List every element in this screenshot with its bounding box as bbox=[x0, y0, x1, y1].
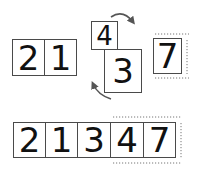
card-2-top: 2 bbox=[12, 39, 45, 76]
card-bottom-2: 1 bbox=[45, 122, 78, 158]
card-label: 3 bbox=[83, 123, 105, 157]
card-4-swapping: 4 bbox=[91, 21, 118, 50]
card-label: 2 bbox=[19, 123, 41, 157]
card-bottom-5-highlighted: 7 bbox=[143, 122, 176, 158]
card-bottom-4: 4 bbox=[110, 122, 144, 158]
card-label: 4 bbox=[116, 123, 138, 157]
card-label: 2 bbox=[18, 41, 40, 75]
card-bottom-3: 3 bbox=[77, 122, 111, 158]
card-3-swapping: 3 bbox=[104, 49, 142, 93]
card-label: 3 bbox=[112, 54, 134, 88]
card-label: 1 bbox=[51, 123, 73, 157]
card-7-highlighted: 7 bbox=[153, 38, 182, 74]
card-label: 1 bbox=[50, 41, 72, 75]
card-label: 4 bbox=[96, 23, 113, 49]
card-label: 7 bbox=[149, 123, 171, 157]
card-1-top: 1 bbox=[44, 39, 77, 76]
card-bottom-1: 2 bbox=[13, 122, 46, 158]
card-label: 7 bbox=[157, 39, 179, 73]
